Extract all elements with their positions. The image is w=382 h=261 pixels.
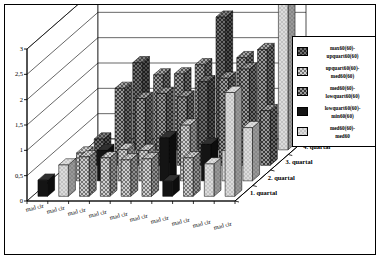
legend-swatch-icon [297, 87, 308, 96]
chart-legend: max60(60)-upquart60(60)upquart60(60)-med… [292, 36, 376, 147]
legend-swatch-icon [297, 127, 308, 136]
legend-label: lowquart60(60)-min60(60) [312, 104, 373, 120]
legend-label-line: lowquart60(60)- [312, 104, 373, 112]
bar-3d [121, 154, 138, 197]
legend-label: med60(60)-lowquart60(60) [312, 84, 373, 100]
bar-3d [261, 104, 278, 165]
y-axis-tick-label: 2 [5, 97, 23, 104]
legend-label-line: med60 [312, 132, 373, 140]
y-axis-tick-label: 0,5 [5, 173, 23, 180]
legend-label: max60(60)-upquart60(60) [312, 44, 373, 60]
y-axis-tick-label: 1,5 [5, 122, 23, 129]
bar-3d [243, 121, 260, 180]
legend-label: upquart60(60)-med60(60) [312, 64, 373, 80]
legend-item[interactable]: max60(60)-upquart60(60) [297, 44, 373, 64]
legend-label-line: lowquart60(60) [312, 92, 373, 100]
depth-axis-category-label: 3. quartal [285, 159, 312, 166]
depth-axis-category-label: 2. quartal [268, 175, 295, 182]
legend-label-line: med60(60)- [312, 84, 373, 92]
legend-item[interactable]: lowquart60(60)-min60(60) [297, 104, 373, 124]
bar-3d [225, 86, 242, 196]
bar-3d [160, 132, 177, 181]
bar-3d [100, 152, 117, 197]
legend-label-line: upquart60(60)- [312, 64, 373, 72]
legend-swatch-icon [297, 47, 308, 56]
chart-frame: 00,511,522,53 mad cirmad cirmad cirmad c… [4, 4, 376, 255]
legend-item[interactable]: med60(60)-lowquart60(60) [297, 84, 373, 104]
bar-3d [204, 158, 221, 197]
bar-3d [142, 153, 159, 197]
depth-axis-category-label: 1. quartal [250, 190, 277, 197]
y-axis-tick-label: 2,5 [5, 71, 23, 78]
legend-label-line: med60(60) [312, 72, 373, 80]
bar-3d [59, 159, 76, 197]
legend-label-line: max60(60)- [312, 44, 373, 52]
legend-label-line: med60(60)- [312, 124, 373, 132]
y-axis-tick-label: 3 [5, 46, 23, 53]
legend-label-line: upquart60(60) [312, 52, 373, 60]
legend-item[interactable]: med60(60)-med60 [297, 124, 373, 144]
bar-3d [184, 152, 201, 197]
legend-swatch-icon [297, 107, 308, 116]
legend-label: med60(60)-med60 [312, 124, 373, 140]
legend-swatch-icon [297, 67, 308, 76]
legend-item[interactable]: upquart60(60)-med60(60) [297, 64, 373, 84]
bar-3d [80, 151, 97, 197]
legend-label-line: min60(60) [312, 112, 373, 120]
y-axis-tick-label: 1 [5, 147, 23, 154]
y-axis-tick-label: 0 [5, 198, 23, 205]
